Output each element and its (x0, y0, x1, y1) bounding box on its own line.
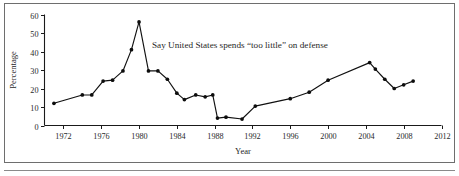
y-tick-label-50: 50 (30, 30, 38, 39)
x-tick-label-2000: 2000 (320, 132, 336, 141)
data-point (121, 69, 125, 73)
x-tick-label-2008: 2008 (396, 132, 412, 141)
data-point (101, 79, 105, 83)
x-axis-title: Year (235, 146, 251, 156)
y-tick-label-10: 10 (30, 104, 38, 113)
data-point (373, 67, 377, 71)
line-chart-plot: 0102030405060 19721976198019841988199219… (0, 0, 459, 176)
chart-annotation-label: Say United States spends “too little” on… (152, 40, 328, 50)
data-point (90, 93, 94, 97)
data-point (130, 48, 134, 52)
x-tick-label-1992: 1992 (244, 132, 260, 141)
x-tick-label-1976: 1976 (93, 132, 109, 141)
axes-group (45, 15, 442, 126)
x-tick-label-1984: 1984 (169, 132, 185, 141)
data-point (288, 97, 292, 101)
data-point (383, 77, 387, 81)
series-line-too-little (54, 22, 413, 119)
y-axis-title: Percentage (8, 51, 18, 89)
data-point (52, 101, 56, 105)
x-tick-label-2012: 2012 (434, 132, 450, 141)
data-point (183, 98, 187, 102)
data-point (166, 77, 170, 81)
y-tick-label-60: 60 (30, 12, 38, 21)
data-point (326, 78, 330, 82)
x-tick-labels: 1972197619801984198819921996200020042008… (55, 132, 450, 141)
y-tick-labels: 0102030405060 (30, 12, 38, 132)
data-point (368, 61, 372, 65)
data-point (211, 93, 215, 97)
data-point (240, 117, 244, 121)
data-point (203, 95, 207, 99)
data-point (80, 93, 84, 97)
x-tick-label-2004: 2004 (358, 132, 374, 141)
data-point (402, 83, 406, 87)
data-point (216, 116, 220, 120)
y-tick-label-0: 0 (34, 123, 38, 132)
data-point (111, 78, 115, 82)
x-tick-label-1980: 1980 (131, 132, 147, 141)
chart-figure: 0102030405060 19721976198019841988199219… (0, 0, 459, 176)
x-tick-label-1972: 1972 (55, 132, 71, 141)
data-point (411, 79, 415, 83)
data-point (392, 87, 396, 91)
y-tick-label-40: 40 (30, 49, 38, 58)
x-tick-label-1988: 1988 (207, 132, 223, 141)
data-point (307, 90, 311, 94)
x-tick-label-1996: 1996 (282, 132, 298, 141)
y-tick-label-20: 20 (30, 86, 38, 95)
data-point (156, 69, 160, 73)
data-point (137, 20, 141, 24)
data-point (147, 69, 151, 73)
y-tick-label-30: 30 (30, 67, 38, 76)
series-markers-too-little (52, 20, 415, 121)
data-point (224, 115, 228, 119)
data-point (194, 93, 198, 97)
data-point (175, 91, 179, 95)
data-point (253, 104, 257, 108)
